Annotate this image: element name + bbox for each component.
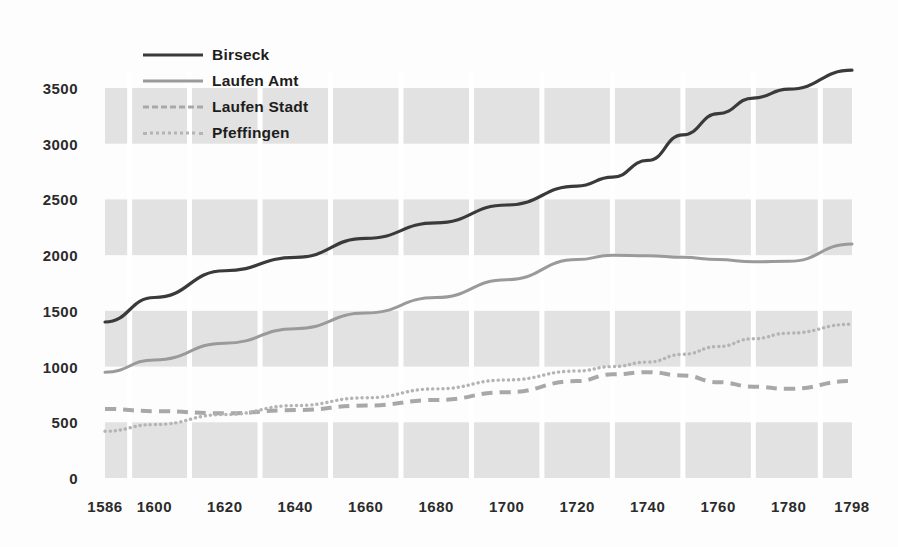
legend-label: Birseck [212, 46, 269, 64]
series-line-laufen-stadt [105, 372, 852, 413]
legend-swatch-dotted-line-icon [143, 126, 203, 140]
y-axis-tick-label: 2000 [8, 247, 78, 264]
y-axis-tick-label: 2500 [8, 191, 78, 208]
x-axis-tick-label: 1660 [348, 498, 383, 515]
y-axis-tick-label: 3000 [8, 135, 78, 152]
chart-canvas [0, 0, 898, 547]
x-axis-tick-label: 1798 [834, 498, 869, 515]
x-axis-tick-label: 1600 [137, 498, 172, 515]
x-axis-tick-label: 1740 [630, 498, 665, 515]
x-axis-tick-label: 1680 [419, 498, 454, 515]
legend-item-laufen-amt[interactable]: Laufen Amt [143, 68, 373, 94]
legend-item-birseck[interactable]: Birseck [143, 42, 373, 68]
x-axis-tick-label: 1760 [700, 498, 735, 515]
horizontal-bands [105, 88, 852, 478]
y-axis-tick-label: 1500 [8, 302, 78, 319]
chart-container: 0500100015002000250030003500 15861600162… [0, 0, 898, 547]
x-axis-tick-label: 1780 [771, 498, 806, 515]
chart-legend: Birseck Laufen Amt Laufen Stadt Pfeffing… [143, 42, 373, 146]
legend-item-laufen-stadt[interactable]: Laufen Stadt [143, 94, 373, 120]
legend-label: Laufen Stadt [212, 98, 308, 116]
y-axis-tick-label: 3500 [8, 80, 78, 97]
legend-label: Pfeffingen [212, 124, 290, 142]
legend-swatch-line-icon [143, 74, 203, 88]
legend-label: Laufen Amt [212, 72, 299, 90]
x-axis-tick-label: 1720 [559, 498, 594, 515]
legend-item-pfeffingen[interactable]: Pfeffingen [143, 120, 373, 146]
legend-swatch-dashed-line-icon [143, 100, 203, 114]
y-axis-tick-label: 1000 [8, 358, 78, 375]
x-axis-tick-label: 1620 [207, 498, 242, 515]
x-axis-tick-label: 1640 [278, 498, 313, 515]
y-axis-tick-label: 500 [8, 414, 78, 431]
legend-swatch-line-icon [143, 48, 203, 62]
y-axis-tick-label: 0 [8, 470, 78, 487]
x-axis-tick-label: 1586 [87, 498, 122, 515]
x-axis-tick-label: 1700 [489, 498, 524, 515]
